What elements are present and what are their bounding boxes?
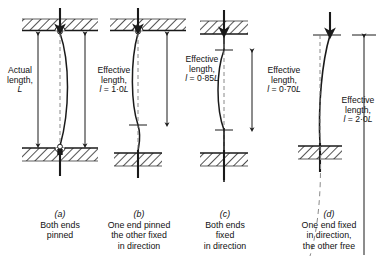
support-bottom-a [22,144,98,176]
column-diagram-c [200,10,252,182]
caption-d: (d) One end fixed in direction, the othe… [276,209,382,252]
buckled-shape-a [60,33,68,146]
actual-length-label-a: Actual length, L [2,66,38,95]
buckled-shape-d [319,35,330,146]
support-bottom-b [114,150,162,178]
effective-length-label-b: Effective length, l = 0·85L [176,55,228,84]
effective-length-label-c: Effective length, l = 0·70L [258,66,310,95]
support-top-b [110,19,186,34]
support-bottom-c [200,150,248,180]
caption-c: (c) Both ends fixed in direction [176,209,274,252]
effective-length-label-a: Effective length, l = 1·0L [90,66,138,95]
effective-length-label-d: Effective length, l = 2·0L [332,96,384,125]
